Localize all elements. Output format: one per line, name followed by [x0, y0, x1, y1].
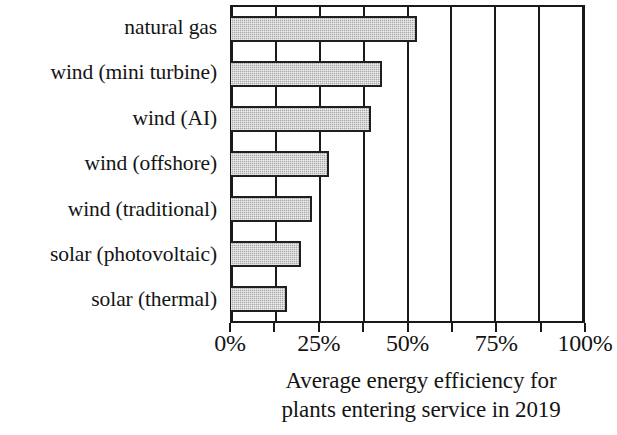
category-label-wind-ai: wind (AI) — [0, 96, 224, 141]
bar-slot — [232, 142, 583, 187]
x-tick-label: 100% — [558, 331, 613, 355]
x-tick-label: 25% — [297, 331, 340, 355]
bar-slot — [232, 276, 583, 321]
x-axis-title-line-2: plants entering service in 2019 — [225, 395, 617, 424]
category-label-wind-traditional: wind (traditional) — [0, 187, 224, 232]
bar-slot — [232, 186, 583, 231]
x-axis-tick-labels: 0%25%50%75%100% — [230, 331, 585, 361]
bar — [231, 61, 382, 87]
bar — [231, 106, 371, 132]
x-axis-title: Average energy efficiency for plants ent… — [225, 366, 617, 425]
category-label-wind-mini-turbine: wind (mini turbine) — [0, 50, 224, 95]
category-axis: natural gas wind (mini turbine) wind (AI… — [0, 5, 224, 323]
bar-chart-figure: natural gas wind (mini turbine) wind (AI… — [0, 0, 617, 435]
category-label-solar-photovoltaic: solar (photovoltaic) — [0, 232, 224, 277]
bar-slot — [232, 231, 583, 276]
bar — [231, 151, 329, 177]
bar — [231, 241, 301, 267]
x-tick-label: 0% — [214, 331, 245, 355]
category-label-solar-thermal: solar (thermal) — [0, 278, 224, 323]
bars-layer — [232, 7, 583, 321]
x-axis-title-line-1: Average energy efficiency for — [225, 366, 617, 395]
bar — [231, 16, 417, 42]
bar-slot — [232, 52, 583, 97]
bar — [231, 196, 312, 222]
x-tick-label: 75% — [475, 331, 518, 355]
x-tick-label: 50% — [386, 331, 429, 355]
bar-slot — [232, 7, 583, 52]
bar-slot — [232, 97, 583, 142]
category-label-wind-offshore: wind (offshore) — [0, 141, 224, 186]
plot-area — [230, 5, 585, 323]
category-label-natural-gas: natural gas — [0, 5, 224, 50]
bar — [231, 286, 287, 312]
